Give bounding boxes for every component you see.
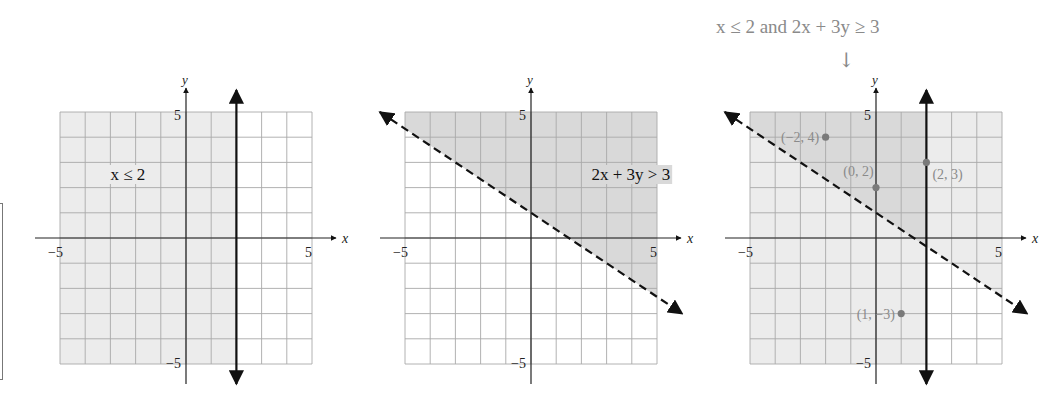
tick-label-y-max: 5 (864, 108, 871, 123)
x-axis-label: x (341, 231, 349, 246)
graph-1: xy−555−5x ≤ 2 (35, 72, 349, 384)
tick-label-x-max: 5 (995, 245, 1002, 260)
graph-2: xy−555−52x + 3y > 3 (380, 72, 694, 384)
inequality-label: 2x + 3y > 3 (591, 165, 670, 184)
tick-label-y-min: −5 (511, 356, 526, 371)
figure: x ≤ 2 and 2x + 3y ≥ 3 ↓ xy−555−5x ≤ 2xy−… (0, 0, 1062, 413)
test-point-label: (1, −3) (857, 307, 896, 323)
inequality-graphs: xy−555−5x ≤ 2xy−555−52x + 3y > 3xy−555−5… (0, 0, 1062, 413)
test-point-label: (0, 2) (843, 164, 874, 180)
test-point-label: (2, 3) (932, 167, 963, 183)
tick-label-x-max: 5 (305, 245, 312, 260)
y-axis-label: y (180, 72, 188, 87)
test-point (923, 159, 930, 166)
y-axis-label: y (525, 72, 533, 87)
y-axis-label: y (870, 72, 878, 87)
tick-label-x-min: −5 (393, 245, 408, 260)
tick-label-x-max: 5 (650, 245, 657, 260)
tick-label-y-min: −5 (166, 356, 181, 371)
test-point-label: (−2, 4) (781, 130, 820, 146)
x-axis-label: x (1031, 231, 1039, 246)
tick-label-y-max: 5 (174, 108, 181, 123)
tick-label-x-min: −5 (738, 245, 753, 260)
test-point (872, 184, 879, 191)
test-point (822, 134, 829, 141)
x-axis-label: x (686, 231, 694, 246)
test-point (898, 310, 905, 317)
tick-label-x-min: −5 (48, 245, 63, 260)
inequality-label: x ≤ 2 (110, 165, 145, 184)
tick-label-y-min: −5 (856, 356, 871, 371)
tick-label-y-max: 5 (519, 108, 526, 123)
graph-3: xy−555−5(−2, 4)(0, 2)(2, 3)(1, −3) (725, 72, 1039, 384)
